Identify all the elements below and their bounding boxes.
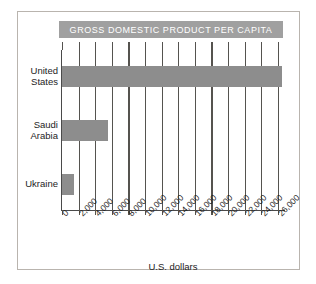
chart-title: GROSS DOMESTIC PRODUCT PER CAPITA: [70, 25, 273, 35]
axis-tick: [128, 42, 129, 50]
x-axis-title: U.S. dollars: [61, 261, 285, 272]
plot-area: [61, 50, 285, 211]
x-axis-tick-labels: 02,0004,0006,0008,00010,00012,00014,0001…: [61, 211, 297, 257]
chart-title-banner: GROSS DOMESTIC PRODUCT PER CAPITA: [59, 21, 283, 38]
category-label-united-states: United States: [31, 66, 58, 87]
category-label-saudi-arabia: Saudi Arabia: [31, 120, 58, 141]
bar-saudi-arabia: [62, 120, 108, 141]
axis-tick: [162, 42, 163, 50]
bar-united-states: [62, 66, 282, 87]
axis-tick: [195, 42, 196, 50]
category-axis-labels: United StatesSaudi ArabiaUkraine: [18, 50, 58, 211]
chart-frame: GROSS DOMESTIC PRODUCT PER CAPITA United…: [17, 11, 300, 270]
axis-tick: [278, 42, 279, 50]
axis-tick: [62, 42, 63, 50]
axis-tick: [112, 42, 113, 50]
axis-tick: [79, 42, 80, 50]
axis-tick: [145, 42, 146, 50]
category-label-ukraine: Ukraine: [25, 179, 58, 190]
axis-tick: [228, 42, 229, 50]
axis-tick: [95, 42, 96, 50]
axis-tick: [211, 42, 212, 50]
bar-ukraine: [62, 174, 74, 195]
axis-tick: [261, 42, 262, 50]
axis-tick: [245, 42, 246, 50]
axis-tick: [178, 42, 179, 50]
